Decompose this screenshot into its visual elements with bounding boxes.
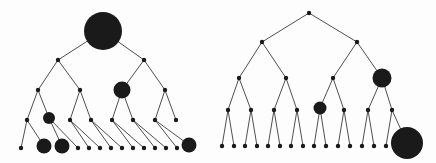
tree-node	[301, 144, 305, 148]
tree-node	[342, 108, 346, 112]
tree-node	[89, 118, 93, 122]
tree-node	[120, 146, 124, 150]
tree-edge	[333, 42, 357, 78]
tree-edge	[309, 13, 357, 42]
tree-edge	[38, 60, 58, 90]
tree-node	[164, 146, 168, 150]
tree-edge	[251, 110, 257, 146]
tree-node	[182, 138, 197, 153]
tree-node	[84, 12, 122, 50]
tree-diagram-canvas	[0, 0, 436, 163]
tree-node	[266, 144, 270, 148]
tree-node	[348, 144, 352, 148]
tree-edge	[297, 110, 303, 146]
tree-edge	[291, 110, 297, 146]
tree-node	[36, 88, 40, 92]
tree-edge	[286, 78, 297, 110]
tree-edge	[239, 42, 262, 78]
tree-node	[314, 102, 327, 115]
tree-node	[25, 118, 29, 122]
tree-node	[43, 112, 55, 124]
tree-node	[131, 118, 135, 122]
tree-edge	[133, 120, 155, 148]
tree-node	[272, 108, 276, 112]
tree-node	[355, 40, 359, 44]
tree-node	[373, 69, 392, 88]
tree-node	[372, 144, 376, 148]
tree-edge	[344, 110, 350, 146]
tree-edge	[27, 90, 38, 120]
tree-edge	[274, 110, 280, 146]
right-tree-nodes	[220, 11, 423, 159]
tree-node	[260, 40, 264, 44]
tree-edge	[80, 90, 91, 120]
tree-node	[360, 144, 364, 148]
tree-edge	[165, 90, 176, 120]
tree-node	[384, 144, 388, 148]
tree-node	[284, 76, 288, 80]
tree-node	[98, 146, 102, 150]
tree-edge	[222, 110, 228, 146]
tree-node	[220, 144, 224, 148]
right-tree-group	[220, 11, 423, 159]
tree-node	[56, 58, 60, 62]
tree-node	[336, 144, 340, 148]
figure-root	[0, 0, 436, 163]
tree-node	[324, 144, 328, 148]
tree-node	[19, 146, 23, 150]
tree-node	[175, 146, 179, 150]
tree-node	[55, 139, 70, 154]
tree-node	[255, 144, 259, 148]
tree-edge	[70, 90, 80, 120]
tree-node	[243, 144, 247, 148]
tree-node	[232, 144, 236, 148]
tree-edge	[91, 120, 111, 148]
tree-edge	[338, 110, 344, 146]
tree-edge	[245, 110, 251, 146]
tree-node	[289, 144, 293, 148]
tree-edge	[70, 120, 89, 148]
tree-node	[76, 146, 80, 150]
tree-edge	[58, 60, 80, 90]
tree-node	[131, 146, 135, 150]
tree-edge	[228, 110, 234, 146]
tree-edge	[155, 90, 165, 120]
tree-node	[153, 146, 157, 150]
tree-edge	[262, 42, 286, 78]
tree-node	[174, 118, 178, 122]
tree-node	[87, 146, 91, 150]
tree-node	[366, 108, 370, 112]
tree-edge	[112, 120, 133, 148]
tree-node	[37, 139, 52, 154]
tree-node	[295, 108, 299, 112]
tree-edge	[21, 120, 27, 148]
tree-node	[142, 58, 146, 62]
tree-edge	[362, 110, 368, 146]
tree-edge	[274, 78, 286, 110]
tree-edge	[368, 110, 374, 146]
tree-edge	[262, 13, 309, 42]
tree-node	[153, 118, 157, 122]
tree-edge	[228, 78, 239, 110]
tree-edge	[386, 110, 392, 146]
tree-edge	[239, 78, 251, 110]
tree-node	[114, 82, 131, 99]
left-tree-nodes	[19, 12, 197, 154]
tree-node	[78, 88, 82, 92]
tree-node	[110, 118, 114, 122]
tree-node	[237, 76, 241, 80]
tree-node	[307, 11, 311, 15]
left-tree-group	[19, 12, 197, 154]
tree-edge	[268, 110, 274, 146]
tree-node	[312, 144, 316, 148]
tree-node	[391, 127, 423, 159]
tree-node	[390, 108, 394, 112]
tree-edge	[144, 60, 165, 90]
tree-node	[226, 108, 230, 112]
tree-node	[278, 144, 282, 148]
tree-node	[142, 146, 146, 150]
tree-node	[68, 118, 72, 122]
tree-node	[109, 146, 113, 150]
tree-node	[249, 108, 253, 112]
tree-edge	[333, 78, 344, 110]
